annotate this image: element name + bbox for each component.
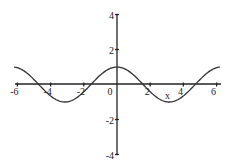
x-tick-label: 4: [178, 86, 183, 97]
y-tick-label: -2: [106, 115, 114, 126]
x-tick-label: 0: [108, 86, 113, 97]
y-tick-label: -4: [106, 150, 114, 161]
x-tick-label: -6: [10, 86, 18, 97]
y-tick-label: 4: [109, 10, 114, 21]
cosine-plot: -6-4-2024642-2-4 x: [0, 0, 234, 165]
y-tick-label: 2: [109, 45, 114, 56]
x-axis-label: x: [165, 90, 170, 101]
tick-labels: -6-4-2024642-2-4: [10, 10, 216, 161]
x-tick-label: 6: [211, 86, 216, 97]
